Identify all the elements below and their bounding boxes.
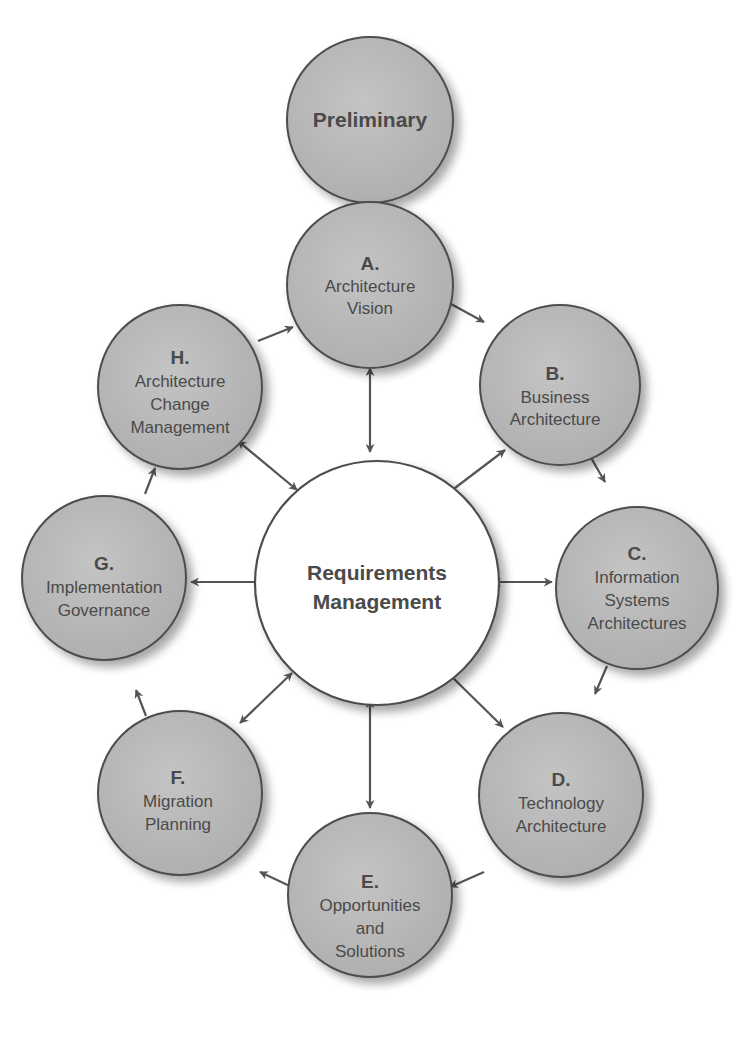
arrow-d-center — [448, 673, 503, 727]
arrow-b-center — [447, 450, 505, 494]
phase-c-line3: Architectures — [587, 614, 686, 633]
phase-h-line2: Change — [150, 395, 210, 414]
phase-e-line3: Solutions — [335, 942, 405, 961]
phase-e-letter: E. — [361, 871, 379, 892]
center-line1: Requirements — [307, 561, 447, 584]
phase-e-line2: and — [356, 919, 384, 938]
phase-d-line2: Architecture — [516, 817, 607, 836]
phase-h-line1: Architecture — [135, 372, 226, 391]
arrow-g-to-h — [145, 468, 155, 494]
phase-c-letter: C. — [628, 543, 647, 564]
node-b — [480, 305, 640, 465]
phase-e-line1: Opportunities — [319, 896, 420, 915]
phase-a-letter: A. — [361, 253, 380, 274]
phase-a-line2: Vision — [347, 299, 393, 318]
arrow-a-to-b — [451, 304, 484, 322]
phase-b-line2: Architecture — [510, 410, 601, 429]
arrow-f-center — [240, 673, 292, 723]
phase-g-line2: Governance — [58, 601, 151, 620]
phase-f-line2: Planning — [145, 815, 211, 834]
phase-b-line1: Business — [521, 388, 590, 407]
phase-h-line3: Management — [130, 418, 230, 437]
phase-g-letter: G. — [94, 553, 114, 574]
node-c — [556, 507, 718, 669]
center-line2: Management — [313, 590, 441, 613]
arrow-f-to-g — [136, 690, 146, 716]
arrow-b-to-c — [590, 456, 605, 482]
arrow-d-to-e — [450, 872, 484, 887]
phase-b-letter: B. — [546, 363, 565, 384]
arrow-c-to-d — [595, 666, 607, 694]
phase-d-letter: D. — [552, 769, 571, 790]
phase-c-line2: Systems — [604, 591, 669, 610]
phase-d-line1: Technology — [518, 794, 605, 813]
adm-cycle-diagram: Preliminary A. Architecture Vision B. Bu… — [0, 0, 747, 1046]
phase-f-line1: Migration — [143, 792, 213, 811]
phase-h-letter: H. — [171, 347, 190, 368]
arrow-h-to-a — [258, 327, 293, 341]
phase-c-line1: Information — [594, 568, 679, 587]
phase-f-letter: F. — [171, 767, 186, 788]
arrow-h-center — [238, 441, 297, 490]
phase-a-line1: Architecture — [325, 277, 416, 296]
preliminary-label: Preliminary — [313, 108, 428, 131]
phase-g-line1: Implementation — [46, 578, 162, 597]
